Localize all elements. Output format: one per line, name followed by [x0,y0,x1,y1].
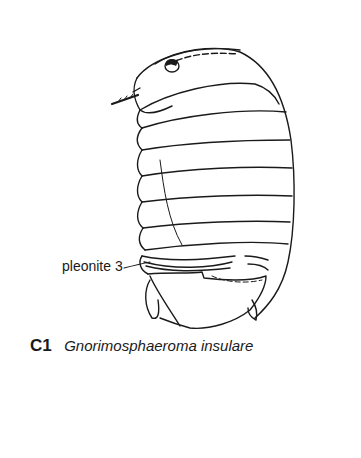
uropod-left [146,280,159,318]
pleon-band-1 [142,256,235,260]
segment-6 [143,221,290,228]
isopod-illustration [0,0,361,458]
pleonite-label: pleonite 3 [62,258,123,274]
caption-id: C1 [30,336,52,355]
segment-2 [142,111,286,128]
segment-4 [142,167,292,176]
segment-1 [140,83,279,110]
segment-3 [142,140,290,150]
segment-5 [142,195,292,202]
pleotelson [148,272,266,328]
pleon-band-2 [144,262,232,267]
head-front [134,78,172,113]
isopod-drawing [0,0,361,458]
segment-7 [145,242,288,250]
body-outline [155,48,294,318]
figure-caption: C1 Gnorimosphaeroma insulare [30,336,253,356]
caption-species: Gnorimosphaeroma insulare [64,337,253,354]
pleonite-leader-line [124,262,150,268]
